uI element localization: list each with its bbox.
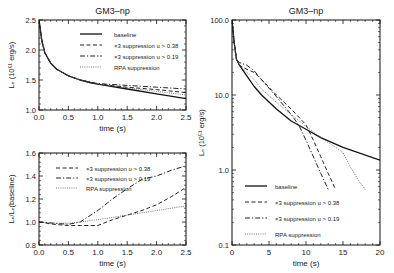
x-tick-label: 1.5 <box>122 248 134 257</box>
legend: baseline×3 suppression u > 0.38×3 suppre… <box>245 184 340 238</box>
chart-title: GM3–np <box>289 6 324 16</box>
series-group <box>232 20 380 190</box>
series-line-dashed <box>232 20 336 190</box>
panel-bottom-left: 0.00.51.01.52.02.50.81.01.21.41.6time (s… <box>7 149 192 268</box>
legend-label: ×3 suppression u > 0.19 <box>114 54 179 60</box>
y-tick-label: 100.0 <box>210 16 229 25</box>
panel-right: 051015200.11.010.0100.0GM3–nptime (s)Lₑ … <box>197 6 385 268</box>
x-tick-label: 1.0 <box>92 113 104 122</box>
y-axis-label: Lₑ (10⁵¹ erg/s) <box>7 41 16 88</box>
x-tick-label: 0.5 <box>63 113 75 122</box>
x-tick-label: 10 <box>302 248 311 257</box>
legend-label: RPA suppression <box>114 65 160 71</box>
legend-label: ×3 suppression u > 0.38 <box>114 43 179 49</box>
legend-label: RPA suppression <box>275 232 321 238</box>
series-line-dashdot <box>39 166 186 225</box>
chart-title: GM3–np <box>95 6 130 16</box>
legend-label: baseline <box>275 184 298 190</box>
x-tick-label: 2.5 <box>180 113 192 122</box>
y-tick-label: 2.0 <box>26 46 36 55</box>
y-axis-label: Lₑ (10⁵¹ erg/s) <box>197 109 206 156</box>
x-tick-label: 0 <box>230 248 235 257</box>
legend-label: ×3 suppression u > 0.38 <box>275 200 340 206</box>
x-tick-label: 20 <box>376 248 385 257</box>
y-tick-label: 1.0 <box>26 218 36 227</box>
legend: ×3 suppression u > 0.38×3 suppression u … <box>56 166 151 192</box>
y-tick-label: 0.1 <box>219 241 229 250</box>
y-tick-label: 1.2 <box>26 195 36 204</box>
y-tick-label: 1.0 <box>26 106 36 115</box>
legend-label: RPA suppression <box>86 186 132 192</box>
series-line-dotted <box>39 206 186 223</box>
y-tick-label: 2.5 <box>26 16 36 25</box>
legend-label: ×3 suppression u > 0.19 <box>86 176 151 182</box>
x-tick-label: 2.0 <box>151 113 163 122</box>
panel-top-left: 0.00.51.01.52.02.51.01.52.02.5GM3–nptime… <box>7 6 192 133</box>
plot-frame <box>232 20 380 245</box>
x-tick-label: 0.5 <box>63 248 75 257</box>
x-tick-label: 5 <box>267 248 272 257</box>
y-tick-label: 1.5 <box>26 76 36 85</box>
series-line-dashdot <box>232 20 328 190</box>
x-tick-label: 1.0 <box>92 248 104 257</box>
x-tick-label: 2.5 <box>180 248 192 257</box>
y-axis-label: Lₑ/Lₑ(baseline) <box>7 174 16 223</box>
legend-label: baseline <box>114 32 137 38</box>
x-axis-label: time (s) <box>293 259 320 268</box>
legend-label: ×3 suppression u > 0.38 <box>86 166 151 172</box>
plot-frame <box>39 20 186 110</box>
x-axis-label: time (s) <box>99 124 126 133</box>
figure: 0.00.51.01.52.02.51.01.52.02.5GM3–nptime… <box>0 0 394 273</box>
series-line-dashed <box>39 188 186 226</box>
legend-label: ×3 suppression u > 0.19 <box>275 216 340 222</box>
x-tick-label: 2.0 <box>151 248 163 257</box>
series-line-dotted <box>232 20 365 190</box>
x-tick-label: 1.5 <box>122 113 134 122</box>
x-tick-label: 15 <box>339 248 348 257</box>
y-tick-label: 0.8 <box>26 241 36 250</box>
x-axis-label: time (s) <box>99 259 126 268</box>
legend: baseline×3 suppression u > 0.38×3 suppre… <box>80 32 179 71</box>
y-tick-label: 1.4 <box>26 172 36 181</box>
y-tick-label: 1.6 <box>26 149 36 158</box>
y-tick-label: 1.0 <box>219 166 229 175</box>
y-tick-label: 10.0 <box>214 91 229 100</box>
